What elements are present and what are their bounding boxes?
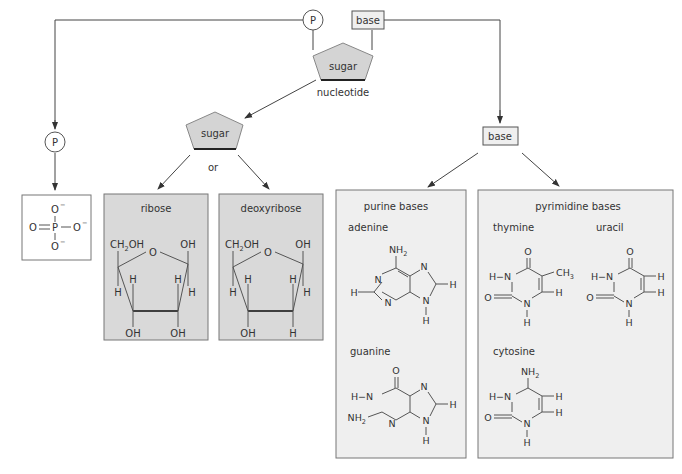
guanine-name: guanine — [350, 346, 390, 357]
adenine-name: adenine — [348, 222, 388, 233]
charge: − — [60, 238, 65, 246]
n3: N — [384, 297, 391, 308]
h5: H — [657, 271, 664, 282]
n9: N — [422, 295, 429, 306]
sugar-label: sugar — [329, 61, 358, 72]
h-right-inner: H — [174, 274, 182, 285]
thymine-name: thymine — [493, 222, 534, 233]
ribose-box — [104, 194, 208, 340]
h6: H — [555, 407, 562, 418]
o2: O — [586, 292, 593, 303]
oh-top-right: OH — [180, 239, 195, 250]
phosphate-label: P — [310, 15, 316, 26]
h1: H — [523, 437, 530, 448]
base-label: base — [356, 15, 380, 26]
pyrimidine-panel: pyrimidine bases thymine uracil O H−N O … — [478, 190, 673, 458]
h2: H — [350, 287, 357, 298]
h9: H — [422, 315, 429, 326]
n1: N — [523, 298, 530, 309]
h-left-outer: H — [114, 287, 122, 298]
h6: H — [555, 287, 562, 298]
purine-panel: purine bases adenine NH2 N N H N H N H g… — [336, 190, 466, 458]
base-branch: base — [384, 20, 559, 187]
arrow-to-ribose — [158, 155, 190, 189]
h-right-inner: H — [289, 274, 297, 285]
n9: N — [422, 415, 429, 426]
n1: N — [523, 418, 530, 429]
h6: H — [657, 287, 664, 298]
o4: O — [626, 246, 633, 257]
phosphate-o-top: O — [51, 204, 59, 215]
o6: O — [392, 365, 399, 376]
o2: O — [484, 292, 491, 303]
phosphate-o-right: O — [73, 222, 81, 233]
h1: H — [625, 317, 632, 328]
charge: − — [60, 201, 65, 209]
phosphate-label-2: P — [52, 137, 58, 148]
uracil-name: uracil — [596, 222, 624, 233]
arrow-to-pyrimidines — [522, 153, 559, 186]
n3: N — [388, 418, 395, 429]
arrow-to-phosphate — [55, 20, 303, 127]
ribose-title: ribose — [141, 203, 172, 214]
ring-oxygen: O — [264, 247, 272, 258]
h1: H — [523, 317, 530, 328]
phosphate-o-bottom: O — [51, 241, 59, 252]
h-right-outer: H — [303, 287, 311, 298]
h8: H — [449, 399, 456, 410]
n1: N — [374, 274, 381, 285]
h-bottom-right: H — [289, 328, 297, 339]
h-left-inner: H — [244, 274, 252, 285]
hn1: H−N — [351, 391, 373, 402]
oh-bottom-left: OH — [240, 328, 255, 339]
arrow-to-deoxyribose — [238, 155, 269, 189]
ring-oxygen: O — [149, 247, 157, 258]
deoxyribose-title: deoxyribose — [241, 203, 302, 214]
ribose-panel: ribose O CH2OH H H OH H OH OH H — [104, 194, 208, 340]
phosphate-o-left: O — [29, 222, 37, 233]
nucleotide-label: nucleotide — [317, 87, 369, 98]
h-left-inner: H — [129, 274, 137, 285]
oh-bottom-right: OH — [170, 328, 185, 339]
hn3: H−N — [489, 271, 511, 282]
top-nucleotide: P base sugar nucleotide — [303, 10, 384, 98]
purine-title: purine bases — [364, 201, 428, 212]
n7: N — [420, 261, 427, 272]
hn3: H−N — [489, 391, 511, 402]
cytosine-name: cytosine — [493, 346, 535, 357]
h5: H — [555, 391, 562, 402]
n1: N — [625, 298, 632, 309]
h9: H — [422, 435, 429, 446]
base-label-2: base — [488, 131, 512, 142]
o4: O — [524, 246, 531, 257]
sugar-label-2: sugar — [201, 128, 230, 139]
h-right-outer: H — [188, 287, 196, 298]
deoxyribose-box — [219, 194, 323, 340]
hn3: H−N — [591, 271, 613, 282]
deoxyribose-panel: deoxyribose O CH2OH H H OH H H OH H — [219, 194, 323, 340]
charge: − — [82, 219, 87, 227]
h8: H — [449, 279, 456, 290]
sugar-branch: sugar or — [158, 80, 316, 189]
pyrimidine-title: pyrimidine bases — [535, 201, 621, 212]
n7: N — [420, 381, 427, 392]
o2: O — [484, 412, 491, 423]
arrow-to-sugar — [245, 80, 316, 118]
or-label: or — [208, 162, 219, 173]
nucleotide-diagram: P base sugar nucleotide P O − O P O − O … — [0, 0, 682, 474]
oh-top-right: OH — [295, 239, 310, 250]
arrow-to-purines — [428, 153, 478, 187]
phosphate-p: P — [52, 222, 58, 233]
arrow-to-base — [384, 20, 500, 118]
h-left-outer: H — [229, 287, 237, 298]
oh-bottom-left: OH — [125, 328, 140, 339]
